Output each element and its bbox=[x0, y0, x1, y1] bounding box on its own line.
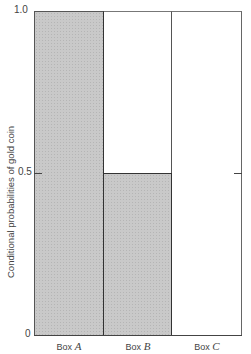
y-tick-0: 0 bbox=[25, 328, 31, 339]
x-label-box-a-letter: A bbox=[75, 340, 82, 352]
y-axis-label: Conditional probabilities of gold coin bbox=[5, 126, 16, 278]
y-tick-1-0: 1.0 bbox=[14, 4, 28, 15]
bar-box-a bbox=[34, 11, 104, 336]
x-label-box-c: Box C bbox=[172, 340, 242, 352]
bar-box-b bbox=[104, 173, 172, 336]
y-tick-mark-left bbox=[34, 173, 42, 174]
plot-area bbox=[34, 11, 242, 336]
x-label-box-a-prefix: Box bbox=[57, 342, 73, 352]
x-axis-line bbox=[34, 335, 242, 336]
bar-box-c bbox=[172, 11, 242, 336]
y-tick-mark-right bbox=[234, 173, 242, 174]
x-label-box-b: Box B bbox=[103, 340, 173, 352]
y-tick-0-5: 0.5 bbox=[18, 166, 32, 177]
x-label-box-c-letter: C bbox=[212, 340, 219, 352]
x-label-box-a: Box A bbox=[34, 340, 104, 352]
x-label-box-c-prefix: Box bbox=[194, 342, 210, 352]
x-label-box-b-prefix: Box bbox=[126, 342, 142, 352]
box-b-outline bbox=[104, 11, 172, 173]
x-label-box-b-letter: B bbox=[144, 340, 151, 352]
